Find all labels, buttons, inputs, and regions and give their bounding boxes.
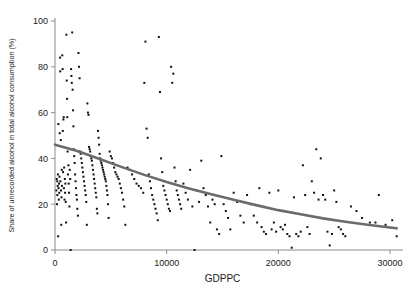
data-point (150, 187, 152, 189)
data-point (92, 169, 94, 171)
data-point (111, 157, 113, 159)
data-point (109, 151, 111, 153)
data-point (75, 187, 77, 189)
scatter-points (55, 31, 397, 251)
data-point (162, 185, 164, 187)
data-point (165, 194, 167, 196)
data-point (67, 151, 69, 153)
data-point (169, 210, 171, 212)
data-point (87, 112, 89, 114)
data-point (64, 192, 66, 194)
data-point (187, 199, 189, 201)
data-point (225, 210, 227, 212)
data-point (57, 185, 59, 187)
data-point (72, 125, 74, 127)
data-point (211, 199, 213, 201)
data-point (258, 187, 260, 189)
data-point (79, 77, 81, 79)
data-point (218, 233, 220, 235)
x-tick-label: 20000 (266, 258, 291, 268)
data-point (143, 82, 145, 84)
data-point (271, 228, 273, 230)
data-point (315, 148, 317, 150)
data-point (96, 208, 98, 210)
data-point (121, 192, 123, 194)
data-point (338, 226, 340, 228)
data-point (344, 235, 346, 237)
data-point (108, 217, 110, 219)
data-point (104, 176, 106, 178)
data-point (300, 231, 302, 233)
data-point (80, 157, 82, 159)
data-point (86, 224, 88, 226)
data-point (396, 235, 398, 237)
data-point (62, 130, 64, 132)
data-point (96, 212, 98, 214)
data-point (324, 199, 326, 201)
data-point (60, 139, 62, 141)
data-point (59, 132, 61, 134)
data-point (76, 208, 78, 210)
data-point (142, 192, 144, 194)
data-point (57, 235, 59, 237)
data-point (66, 116, 68, 118)
x-tick-label: 30000 (377, 258, 402, 268)
data-point (168, 208, 170, 210)
data-point (203, 187, 205, 189)
data-point (138, 185, 140, 187)
data-point (64, 178, 66, 180)
data-point (161, 171, 163, 173)
data-point (68, 205, 70, 207)
data-point (59, 70, 61, 72)
data-point (151, 194, 153, 196)
data-point (106, 194, 108, 196)
data-point (163, 189, 165, 191)
data-point (56, 194, 58, 196)
data-point (66, 98, 68, 100)
data-point (101, 167, 103, 169)
data-point (176, 189, 178, 191)
data-point (133, 178, 135, 180)
data-point (146, 128, 148, 130)
data-point (239, 215, 241, 217)
data-point (110, 155, 112, 157)
data-point (60, 196, 62, 198)
data-point (58, 192, 60, 194)
data-point (86, 102, 88, 104)
data-point (326, 231, 328, 233)
data-point (172, 73, 174, 75)
x-axis-title: GDPPC (205, 273, 241, 284)
data-point (85, 201, 87, 203)
data-point (114, 171, 116, 173)
data-point (289, 235, 291, 237)
data-point (84, 185, 86, 187)
data-point (61, 54, 63, 56)
y-tick-label: 100 (33, 16, 48, 26)
data-point (84, 189, 86, 191)
data-point (62, 171, 64, 173)
data-point (63, 167, 65, 169)
scatter-chart: 0204060801000100002000030000GDPPCShare o… (0, 0, 418, 296)
data-point (313, 192, 315, 194)
data-point (277, 189, 279, 191)
data-point (297, 235, 299, 237)
data-point (350, 205, 352, 207)
data-point (191, 205, 193, 207)
data-point (333, 189, 335, 191)
data-point (67, 164, 69, 166)
data-point (61, 169, 63, 171)
y-tick-label: 60 (38, 108, 48, 118)
data-point (78, 66, 80, 68)
data-point (58, 199, 60, 201)
data-point (85, 194, 87, 196)
data-point (159, 91, 161, 93)
data-point (74, 162, 76, 164)
data-point (227, 217, 229, 219)
data-point (253, 215, 255, 217)
data-point (98, 137, 100, 139)
data-point (70, 249, 72, 251)
data-point (189, 169, 191, 171)
data-point (57, 173, 59, 175)
data-point (155, 208, 157, 210)
data-point (280, 226, 282, 228)
